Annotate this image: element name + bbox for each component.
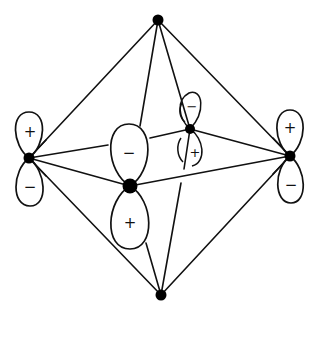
vertex-right [285,151,296,162]
vertex-front [123,179,138,194]
front-upper-sign: − [123,144,136,162]
back-lower-lobe-left-arc [178,138,183,162]
edge-back-right [190,129,290,156]
right-upper-sign: + [284,119,297,137]
octahedron-orbital-diagram: − + + − + − − + [0,0,314,347]
edges-bottom [29,129,290,295]
vertex-left [24,153,35,164]
front-lower-sign: + [124,214,137,232]
edges-equator [29,129,290,186]
vertices [24,15,296,301]
back-upper-sign: − [187,99,198,114]
vertex-top [153,15,164,26]
back-lower-sign: + [190,145,201,160]
right-lower-sign: − [285,176,298,194]
left-lower-sign: − [24,178,37,196]
edges-top [29,20,290,158]
vertex-bottom [156,290,167,301]
edge-back-front-lobe [150,129,190,138]
left-upper-sign: + [24,123,37,141]
vertex-back [185,124,195,134]
edge-left-back [29,145,108,158]
edge-bottom-back-lower [161,183,181,295]
